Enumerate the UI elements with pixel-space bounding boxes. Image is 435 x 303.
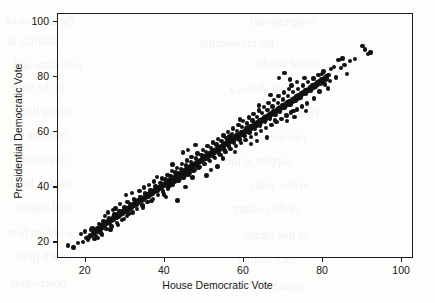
x-axis-tick <box>401 258 402 262</box>
data-point <box>223 150 227 154</box>
data-point <box>288 102 292 106</box>
data-point <box>155 175 159 179</box>
data-point <box>279 117 283 121</box>
data-point <box>231 126 235 130</box>
data-point <box>250 118 254 122</box>
data-point <box>116 223 120 227</box>
x-axis-tick <box>85 258 86 262</box>
data-point <box>165 173 169 177</box>
data-point <box>301 83 305 87</box>
data-point <box>285 119 289 123</box>
data-point <box>277 76 281 80</box>
data-point <box>249 135 253 139</box>
data-point <box>326 86 330 90</box>
data-point <box>342 63 346 67</box>
data-point <box>247 130 251 134</box>
x-tick-label: 100 <box>392 264 410 276</box>
data-point <box>108 228 112 232</box>
data-point <box>137 189 141 193</box>
data-point <box>363 47 367 51</box>
data-point <box>183 174 187 178</box>
data-point <box>66 243 70 247</box>
data-point <box>249 142 253 146</box>
data-point <box>332 65 336 69</box>
data-point <box>96 236 100 240</box>
data-point <box>76 241 80 245</box>
data-point <box>205 144 209 148</box>
data-point <box>213 156 217 160</box>
data-point <box>235 129 239 133</box>
data-point <box>221 133 225 137</box>
data-point <box>209 168 213 172</box>
x-tick-label: 20 <box>79 264 91 276</box>
data-point <box>158 181 162 185</box>
data-point <box>130 210 134 214</box>
data-point <box>263 120 267 124</box>
data-point <box>243 138 247 142</box>
data-point <box>288 77 292 81</box>
data-point <box>198 165 202 169</box>
x-tick-label: 60 <box>237 264 249 276</box>
data-point <box>175 166 179 170</box>
data-point <box>239 141 243 145</box>
data-point <box>257 103 261 107</box>
data-point <box>190 175 194 179</box>
data-point <box>310 85 314 89</box>
data-point <box>234 144 238 148</box>
data-point <box>284 113 288 117</box>
y-axis-label: Presidential Democratic Vote <box>12 51 24 211</box>
data-point <box>282 90 286 94</box>
data-point <box>340 56 344 60</box>
data-point <box>251 112 255 116</box>
data-point <box>258 123 262 127</box>
data-point <box>186 148 190 152</box>
data-point <box>147 183 151 187</box>
scatter-points-layer <box>57 13 413 258</box>
data-point <box>238 117 242 121</box>
data-point <box>160 176 164 180</box>
data-point <box>345 72 349 76</box>
data-point <box>193 168 197 172</box>
data-point <box>177 177 181 181</box>
data-point <box>328 79 332 83</box>
data-point <box>203 162 207 166</box>
data-point <box>117 209 121 213</box>
data-point <box>201 148 205 152</box>
data-point <box>292 115 296 119</box>
data-point <box>125 200 129 204</box>
data-point <box>184 163 188 167</box>
data-point <box>208 159 212 163</box>
data-point <box>124 193 128 197</box>
figure-container: the election ofcongressionaldistricts in… <box>0 0 435 303</box>
data-point <box>278 109 282 113</box>
x-tick-label: 80 <box>316 264 328 276</box>
y-axis-tick <box>53 241 57 242</box>
data-point <box>254 132 258 136</box>
data-point <box>164 195 168 199</box>
y-tick-label: 80 <box>21 70 49 82</box>
data-point <box>312 96 316 100</box>
data-point <box>100 232 104 236</box>
data-point <box>71 245 75 249</box>
data-point <box>142 185 146 189</box>
data-point <box>204 173 208 177</box>
data-point <box>304 92 308 96</box>
data-point <box>270 104 274 108</box>
data-point <box>126 212 130 216</box>
data-point <box>264 126 268 130</box>
data-point <box>221 156 225 160</box>
data-point <box>173 170 177 174</box>
data-point <box>282 71 286 75</box>
data-point <box>368 50 372 54</box>
data-point <box>269 123 273 127</box>
x-axis-label: House Democratic Vote <box>0 279 435 291</box>
x-axis-tick <box>243 258 244 262</box>
data-point <box>227 134 231 138</box>
x-tick-label: 40 <box>158 264 170 276</box>
data-point <box>353 57 357 61</box>
data-point <box>122 205 126 209</box>
y-tick-label: 40 <box>21 180 49 192</box>
data-point <box>295 80 299 84</box>
data-point <box>259 129 263 133</box>
data-point <box>273 113 277 117</box>
